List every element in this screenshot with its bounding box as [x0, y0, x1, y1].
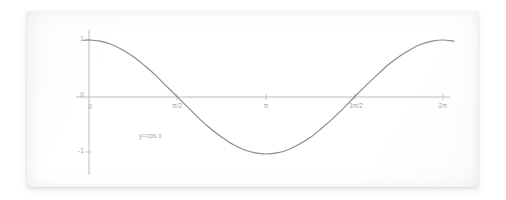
x-tick-label-two-pi: 2π	[434, 103, 452, 110]
x-tick-label-half-pi: π/2	[166, 103, 188, 110]
y-tick-label-zero: 0	[68, 92, 84, 99]
x-tick-label-pi: π	[260, 103, 272, 110]
y-tick-label-one: 1	[68, 36, 84, 43]
x-tick-label-three-half-pi: 3π/2	[343, 103, 369, 110]
y-tick-label-neg-one: -1	[66, 148, 84, 155]
x-tick-label-zero: 0	[84, 104, 96, 111]
screenshot-stage: 1 0 -1 0 π/2 π 3π/2 2π y=cos x	[0, 0, 506, 200]
cosine-plot	[0, 0, 506, 200]
equation-annotation: y=cos x	[139, 133, 162, 140]
